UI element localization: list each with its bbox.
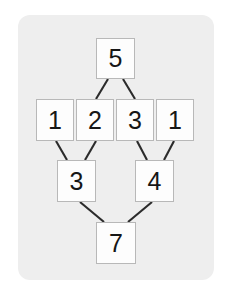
number-cell-r2c4[interactable]: 1 (156, 99, 194, 141)
number-cell-value: 3 (70, 169, 84, 194)
number-cell-value: 1 (168, 108, 182, 133)
number-cell-value: 4 (148, 169, 162, 194)
number-cell-value: 3 (128, 108, 142, 133)
number-cell-value: 2 (88, 108, 102, 133)
edge-r1c1-r2c2 (96, 79, 108, 99)
number-cell-value: 5 (109, 46, 123, 71)
number-cell-r2c3[interactable]: 3 (116, 99, 154, 141)
number-cell-r3c1[interactable]: 3 (57, 160, 96, 202)
edge-r2c1-r3c1 (56, 141, 67, 160)
edge-r3c1-r4c1 (80, 202, 104, 222)
number-cell-r2c2[interactable]: 2 (76, 99, 114, 141)
number-cell-value: 1 (48, 108, 62, 133)
number-cell-r4c1[interactable]: 7 (96, 222, 136, 264)
number-cell-r3c2[interactable]: 4 (135, 160, 174, 202)
edge-r3c2-r4c1 (128, 202, 152, 222)
edge-r2c4-r3c2 (164, 141, 174, 160)
number-cell-value: 7 (109, 231, 123, 256)
number-cell-r1c1[interactable]: 5 (96, 38, 135, 79)
edge-r2c3-r3c2 (137, 141, 147, 160)
number-cell-r2c1[interactable]: 1 (36, 99, 74, 141)
edge-r2c2-r3c1 (85, 141, 96, 160)
edge-r1c1-r2c3 (123, 79, 135, 99)
